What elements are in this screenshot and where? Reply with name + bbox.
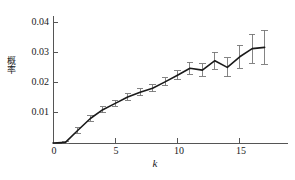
y-tick-0.02: 0.02 xyxy=(13,76,49,88)
x-axis-label: k xyxy=(145,157,165,169)
x-tick-label-5: 5 xyxy=(106,145,126,156)
x-tick-label-10: 10 xyxy=(169,145,189,156)
error-bars xyxy=(62,30,268,143)
y-tick-0.04: 0.04 xyxy=(13,16,49,28)
y-tick-label: 0.03 xyxy=(15,46,49,57)
y-axis-label: 概率 xyxy=(2,56,16,74)
y-tick-0.03: 0.03 xyxy=(13,46,49,58)
x-tick-label-0: 0 xyxy=(44,145,64,156)
y-tick-label: 0.01 xyxy=(15,106,49,117)
chart-figure: 概率 0.04 0.03 0.02 0.01 0 5 10 15 k xyxy=(0,0,295,180)
y-tick-label: 0.04 xyxy=(15,16,49,27)
y-tick-0.01: 0.01 xyxy=(13,106,49,118)
data-line xyxy=(53,47,265,143)
x-tick-label-15: 15 xyxy=(231,145,251,156)
y-tick-label: 0.02 xyxy=(15,76,49,87)
